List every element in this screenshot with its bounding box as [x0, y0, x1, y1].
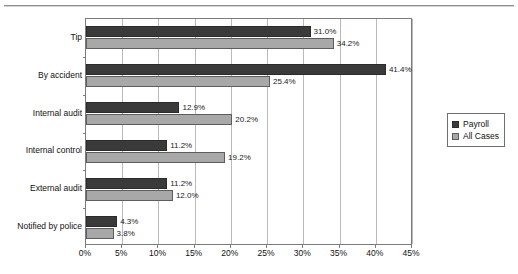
bar-value-label: 34.2%	[337, 38, 360, 49]
chart-legend: PayrollAll Cases	[447, 113, 505, 147]
bar-allcases	[86, 38, 334, 49]
bar-value-label: 25.4%	[273, 76, 296, 87]
legend-label: All Cases	[463, 131, 499, 141]
gridline	[267, 19, 268, 244]
category-label: Tip	[2, 32, 82, 42]
bar-value-label: 11.2%	[170, 178, 192, 189]
bar-value-label: 3.8%	[117, 228, 135, 239]
legend-item: Payroll	[452, 118, 499, 130]
x-axis-tick-label: 35%	[330, 248, 347, 258]
y-axis-tick	[83, 133, 86, 134]
bar-payroll	[86, 216, 117, 227]
x-axis-tick-label: 15%	[185, 248, 202, 258]
bar-value-label: 31.0%	[314, 26, 337, 37]
x-axis-tick-labels: 0%5%10%15%20%25%30%35%40%45%	[85, 248, 412, 264]
y-axis-tick	[83, 208, 86, 209]
y-axis-tick	[83, 95, 86, 96]
gridline	[376, 19, 377, 244]
bar-allcases	[86, 190, 173, 201]
top-divider-rule-shadow	[4, 6, 514, 7]
bar-value-label: 20.2%	[235, 114, 258, 125]
bar-group: 11.2%19.2%	[86, 140, 411, 163]
y-axis-tick	[83, 170, 86, 171]
bar-group: 12.9%20.2%	[86, 102, 411, 125]
y-axis-tick	[83, 57, 86, 58]
x-axis-tick-label: 25%	[258, 248, 275, 258]
category-label: Notified by police	[2, 221, 82, 231]
bar-value-label: 11.2%	[170, 140, 192, 151]
bar-payroll	[86, 140, 167, 151]
category-label: External audit	[2, 183, 82, 193]
category-label: Internal audit	[2, 108, 82, 118]
legend-swatch-icon	[452, 121, 459, 128]
gridline	[231, 19, 232, 244]
x-axis-tick-label: 40%	[366, 248, 383, 258]
gridline	[195, 19, 196, 244]
bar-payroll	[86, 26, 311, 37]
bar-value-label: 4.3%	[120, 216, 138, 227]
plot-area: 31.0%34.2%41.4%25.4%12.9%20.2%11.2%19.2%…	[85, 18, 412, 245]
bar-group: 31.0%34.2%	[86, 26, 411, 49]
legend-item: All Cases	[452, 130, 499, 142]
bar-allcases	[86, 76, 270, 87]
legend-swatch-icon	[452, 133, 459, 140]
bar-group: 41.4%25.4%	[86, 64, 411, 87]
chart-figure: TipBy accidentInternal auditInternal con…	[0, 0, 518, 274]
gridline	[122, 19, 123, 244]
gridline	[340, 19, 341, 244]
x-axis-tick-label: 10%	[149, 248, 166, 258]
x-axis-tick-label: 45%	[402, 248, 419, 258]
bar-payroll	[86, 64, 386, 75]
bar-value-label: 41.4%	[389, 64, 412, 75]
bar-payroll	[86, 178, 167, 189]
x-axis-tick-label: 0%	[79, 248, 91, 258]
bar-payroll	[86, 102, 179, 113]
bar-group: 11.2%12.0%	[86, 178, 411, 201]
bar-value-label: 12.9%	[182, 102, 205, 113]
gridline	[412, 19, 413, 244]
bar-allcases	[86, 152, 225, 163]
y-axis-category-labels: TipBy accidentInternal auditInternal con…	[0, 18, 82, 245]
x-axis-tick-label: 20%	[221, 248, 238, 258]
gridline	[303, 19, 304, 244]
category-label: Internal control	[2, 145, 82, 155]
bar-value-label: 12.0%	[176, 190, 199, 201]
x-axis-tick-label: 5%	[115, 248, 127, 258]
bar-value-label: 19.2%	[228, 152, 251, 163]
bar-group: 4.3%3.8%	[86, 216, 411, 239]
gridline	[158, 19, 159, 244]
bar-allcases	[86, 114, 232, 125]
category-label: By accident	[2, 70, 82, 80]
legend-label: Payroll	[463, 119, 489, 129]
bar-allcases	[86, 228, 114, 239]
x-axis-tick-label: 30%	[294, 248, 311, 258]
